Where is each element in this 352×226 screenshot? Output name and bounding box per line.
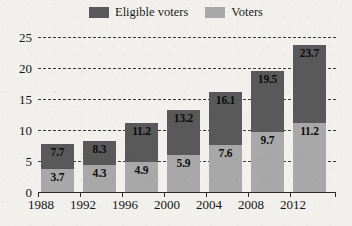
y-tick-label-20: 20: [2, 62, 32, 75]
bar-segment-voters-1992[interactable]: 4.3: [83, 165, 116, 192]
chart-legend: Eligible voters Voters: [0, 6, 352, 19]
bar-label-eligible-voters-2004: 16.1: [209, 95, 242, 107]
bar-segment-eligible-voters-1996[interactable]: 11.2: [125, 123, 158, 162]
bar-label-voters-1996: 4.9: [125, 165, 158, 177]
x-axis-line: [38, 192, 336, 193]
bar-segment-eligible-voters-2008[interactable]: 19.5: [251, 71, 284, 132]
y-tick-label-25: 25: [2, 31, 32, 44]
bar-segment-voters-1996[interactable]: 4.9: [125, 162, 158, 192]
bar-label-voters-2008: 9.7: [251, 135, 284, 147]
y-tick-label-15: 15: [2, 93, 32, 106]
bar-label-voters-2004: 7.6: [209, 148, 242, 160]
legend-label-eligible-voters: Eligible voters: [115, 6, 188, 19]
bar-segment-voters-2012[interactable]: 11.2: [293, 123, 326, 192]
bar-segment-voters-2000[interactable]: 5.9: [167, 155, 200, 192]
gridline-20: [38, 68, 336, 69]
bar-segment-voters-1988[interactable]: 3.7: [41, 169, 74, 192]
bar-segment-voters-2004[interactable]: 7.6: [209, 145, 242, 192]
bar-label-eligible-voters-2012: 23.7: [293, 48, 326, 60]
bar-segment-eligible-voters-1988[interactable]: 7.7: [41, 144, 74, 169]
bar-label-eligible-voters-1992: 8.3: [83, 144, 116, 156]
gridline-25: [38, 37, 336, 38]
legend-swatch-eligible-voters: [89, 7, 109, 18]
stacked-bar-chart: Eligible voters Voters 25 20 15 10 5 0 7…: [0, 0, 352, 226]
bar-segment-eligible-voters-2012[interactable]: 23.7: [293, 45, 326, 123]
legend-item-voters: Voters: [205, 6, 263, 19]
y-tick-label-10: 10: [2, 124, 32, 137]
bar-label-voters-1992: 4.3: [83, 168, 116, 180]
legend-label-voters: Voters: [231, 6, 263, 19]
y-tick-label-5: 5: [2, 155, 32, 168]
bar-label-voters-2000: 5.9: [167, 158, 200, 170]
gridline-15: [38, 99, 336, 100]
bar-label-eligible-voters-2000: 13.2: [167, 113, 200, 125]
bar-segment-voters-2008[interactable]: 9.7: [251, 132, 284, 192]
bar-label-eligible-voters-1996: 11.2: [125, 126, 158, 138]
bar-label-eligible-voters-1988: 7.7: [41, 147, 74, 159]
x-tick-label-2012: 2012: [265, 198, 321, 211]
bar-label-voters-1988: 3.7: [41, 172, 74, 184]
x-axis-tick-7: [335, 192, 336, 197]
bar-label-eligible-voters-2008: 19.5: [251, 74, 284, 86]
bar-segment-eligible-voters-2004[interactable]: 16.1: [209, 92, 242, 145]
bar-segment-eligible-voters-1992[interactable]: 8.3: [83, 141, 116, 166]
bar-label-voters-2012: 11.2: [293, 126, 326, 138]
legend-swatch-voters: [205, 7, 225, 18]
legend-item-eligible-voters: Eligible voters: [89, 6, 188, 19]
bar-segment-eligible-voters-2000[interactable]: 13.2: [167, 110, 200, 155]
plot-area: 7.7 3.7 8.3 4.3 11.2 4.9 13.2: [38, 30, 336, 192]
